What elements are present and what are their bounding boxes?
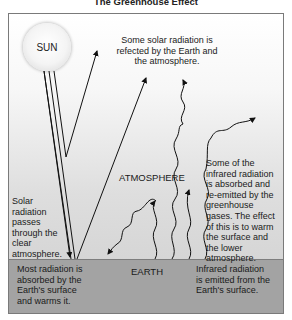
solar-pass-caption: Solar radiation passes through the clear… xyxy=(12,196,62,260)
surface-absorb-caption: Most radiation is absorbed by the Earth'… xyxy=(17,264,83,306)
reemitted-down-wavy-arrow xyxy=(108,199,156,254)
infrared-up-arrow-1 xyxy=(153,201,156,259)
absorbed-reemitted-caption: Some of the infrared radiation is absorb… xyxy=(206,158,275,264)
reflected-wavy-arrow xyxy=(181,80,185,124)
infrared-up-arrow-2 xyxy=(187,190,190,259)
infrared-emit-caption: Infrared radiation is emitted from the E… xyxy=(196,264,270,296)
diagram-frame: SUN Some solar radiation xyxy=(8,13,284,314)
infrared-escape-wavy-arrow xyxy=(172,124,183,259)
atmosphere-label: ATMOSPHERE xyxy=(119,173,185,184)
earth-label: EARTH xyxy=(131,267,163,278)
reflected-earth-arrow xyxy=(77,78,146,259)
diagram-title: The Greenhouse Effect xyxy=(0,0,292,7)
reflected-caption: Some solar radiation is refected by the … xyxy=(97,35,237,67)
